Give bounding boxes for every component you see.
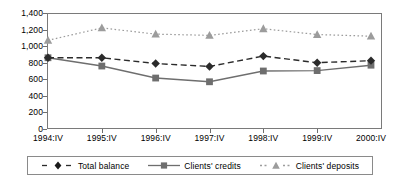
data-point-marker [314,67,321,74]
data-point-marker [151,59,159,67]
data-point-marker [205,62,213,70]
legend-marker-triangle-icon [259,160,293,171]
legend-item-clients-credits: Clients' credits [147,160,241,171]
legend-marker-diamond-icon [41,160,75,171]
legend-item-total-balance: Total balance [41,160,129,171]
data-point-marker [44,36,52,44]
legend-label-total-balance: Total balance [78,161,129,171]
data-point-marker [259,24,267,32]
chart-legend: Total balance Clients' credits Clients' … [27,156,373,175]
data-point-marker [367,32,375,40]
data-point-marker [206,78,213,85]
legend-label-clients-deposits: Clients' deposits [296,161,359,171]
data-point-marker [259,52,267,60]
line-chart: 1,4001,2001,0008006004002000 1994:IV1995… [0,0,400,182]
data-point-marker [260,68,267,75]
data-point-marker [152,75,159,82]
legend-label-clients-credits: Clients' credits [184,161,241,171]
data-point-marker [98,63,105,70]
legend-item-clients-deposits: Clients' deposits [259,160,359,171]
data-point-marker [98,54,106,62]
data-point-marker [313,59,321,67]
series-layer [0,0,400,182]
legend-marker-square-icon [147,160,181,171]
data-point-marker [98,24,106,32]
